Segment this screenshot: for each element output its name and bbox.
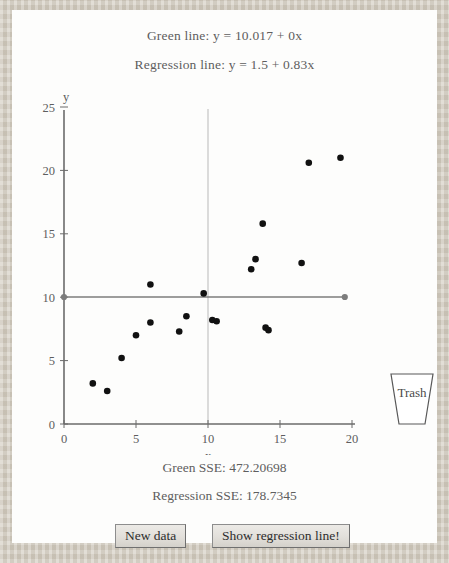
- y-tick-label: 15: [43, 227, 56, 241]
- data-point[interactable]: [337, 154, 344, 161]
- data-point[interactable]: [298, 260, 305, 267]
- data-point[interactable]: [176, 328, 183, 335]
- y-tick-label: 0: [49, 418, 55, 432]
- data-point[interactable]: [183, 313, 190, 320]
- data-point[interactable]: [147, 319, 154, 326]
- y-axis-title: y: [63, 90, 70, 104]
- data-point[interactable]: [90, 380, 97, 387]
- x-tick-label: 10: [202, 432, 215, 446]
- x-axis-title: x: [205, 449, 212, 455]
- regression-sse-label: Regression SSE: 178.7345: [12, 488, 437, 504]
- axes-group: [64, 110, 355, 424]
- data-point[interactable]: [147, 281, 154, 288]
- data-point[interactable]: [133, 332, 140, 339]
- data-point[interactable]: [252, 256, 259, 263]
- new-data-button[interactable]: New data: [115, 524, 186, 548]
- data-points-group: [90, 154, 344, 394]
- y-tick-label: 5: [49, 354, 55, 368]
- trash-label: Trash: [383, 385, 441, 401]
- data-point[interactable]: [200, 290, 207, 297]
- data-point[interactable]: [118, 355, 125, 362]
- scatter-plot[interactable]: 051015202505101520 yx: [12, 80, 372, 455]
- data-point[interactable]: [306, 159, 313, 166]
- applet-panel: Green line: y = 10.017 + 0x Regression l…: [12, 10, 437, 543]
- green-line-equation-label: Green line: y = 10.017 + 0x: [12, 28, 437, 44]
- data-point[interactable]: [248, 266, 255, 273]
- axis-tick-labels-group: 051015202505101520: [43, 101, 359, 447]
- y-tick-label: 10: [43, 291, 56, 305]
- page-background: Green line: y = 10.017 + 0x Regression l…: [0, 0, 449, 563]
- data-point[interactable]: [259, 220, 266, 227]
- green-line-handle[interactable]: [342, 294, 348, 300]
- green-sse-label: Green SSE: 472.20698: [12, 460, 437, 476]
- data-point[interactable]: [213, 318, 220, 325]
- data-point[interactable]: [104, 388, 111, 395]
- plot-canvas[interactable]: 051015202505101520 yx: [12, 80, 372, 455]
- axis-ticks-group: [60, 107, 352, 428]
- regression-line-equation-label: Regression line: y = 1.5 + 0.83x: [12, 57, 437, 73]
- green-line-handle[interactable]: [61, 294, 67, 300]
- y-tick-label: 25: [43, 101, 56, 115]
- trash-can[interactable]: Trash: [383, 371, 441, 427]
- y-tick-label: 20: [43, 164, 56, 178]
- axis-titles-group: yx: [63, 90, 212, 455]
- data-point[interactable]: [265, 327, 272, 334]
- x-tick-label: 5: [133, 432, 139, 446]
- x-tick-label: 15: [274, 432, 287, 446]
- x-tick-label: 20: [346, 432, 359, 446]
- x-tick-label: 0: [61, 432, 67, 446]
- show-regression-line-button[interactable]: Show regression line!: [212, 524, 350, 548]
